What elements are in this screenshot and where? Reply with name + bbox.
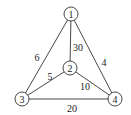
node-label: 4: [113, 94, 118, 105]
graph-diagram: 630451020 1234: [0, 0, 131, 115]
edge-1-2: [70, 14, 71, 68]
edge-weight-2-4: 10: [80, 81, 90, 92]
edge-1-3: [22, 14, 71, 99]
edge-2-4: [70, 68, 115, 99]
edge-weight-3-4: 20: [67, 103, 77, 114]
edge-1-4: [71, 14, 115, 99]
node-3: 3: [15, 92, 29, 106]
edge-2-3: [22, 68, 70, 99]
edge-weight-1-2: 30: [73, 42, 83, 53]
node-label: 2: [68, 63, 73, 74]
edge-weight-2-3: 5: [48, 71, 53, 82]
node-label: 3: [20, 94, 25, 105]
edge-weight-1-4: 4: [102, 57, 107, 68]
node-label: 1: [69, 9, 74, 20]
node-1: 1: [64, 7, 78, 21]
edge-weight-1-3: 6: [35, 52, 40, 63]
node-2: 2: [63, 61, 77, 75]
node-4: 4: [108, 92, 122, 106]
